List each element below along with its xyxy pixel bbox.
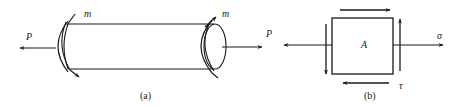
force-left-label: P: [25, 31, 32, 42]
element-label: A: [360, 39, 368, 50]
moment-left-arrowhead: [70, 70, 79, 77]
figure-canvas: P P m m (a) A σ τ (b): [0, 0, 458, 106]
caption-b: (b): [364, 90, 376, 102]
moment-left-label: m: [84, 8, 91, 19]
moment-right-tail: [212, 73, 218, 78]
moment-left-arrow: [67, 14, 75, 25]
sigma-label: σ: [437, 30, 443, 41]
tau-label: τ: [399, 80, 403, 91]
moment-right-label: m: [222, 8, 229, 19]
force-right-label: P: [265, 28, 272, 39]
caption-a: (a): [140, 90, 151, 102]
figure-a-bar: [20, 14, 262, 78]
